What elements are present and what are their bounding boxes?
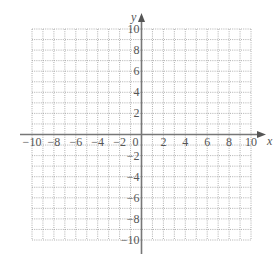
y-tick-label: 2 [134, 106, 140, 120]
y-tick-label: −4 [127, 170, 140, 184]
x-tick-label: 10 [245, 135, 257, 149]
y-tick-label: 4 [134, 85, 140, 99]
y-tick-label: −6 [127, 191, 140, 205]
x-tick-label: 4 [182, 135, 188, 149]
x-axis-arrow-icon [257, 131, 266, 138]
x-tick-label: −6 [69, 135, 82, 149]
x-axis-label: x [266, 134, 273, 148]
y-tick-label: −2 [127, 149, 140, 163]
x-tick-label: 2 [160, 135, 166, 149]
y-tick-label: −10 [121, 233, 140, 247]
y-axis-label: y [130, 10, 137, 24]
y-tick-label: 10 [128, 22, 140, 36]
y-tick-label: 8 [134, 43, 140, 57]
y-tick-label: 6 [134, 64, 140, 78]
x-tick-label: 8 [226, 135, 232, 149]
y-tick-label: −8 [127, 212, 140, 226]
x-tick-label: 0 [133, 135, 139, 149]
x-tick-label: −8 [48, 135, 61, 149]
x-tick-label: −4 [91, 135, 104, 149]
y-axis-arrow-icon [138, 13, 145, 22]
x-tick-label: 6 [204, 135, 210, 149]
coordinate-plane: −10−8−6−4−20246810108642−2−4−6−8−10 x y [0, 0, 277, 261]
x-tick-label: −10 [23, 135, 42, 149]
x-tick-label: −2 [113, 135, 126, 149]
